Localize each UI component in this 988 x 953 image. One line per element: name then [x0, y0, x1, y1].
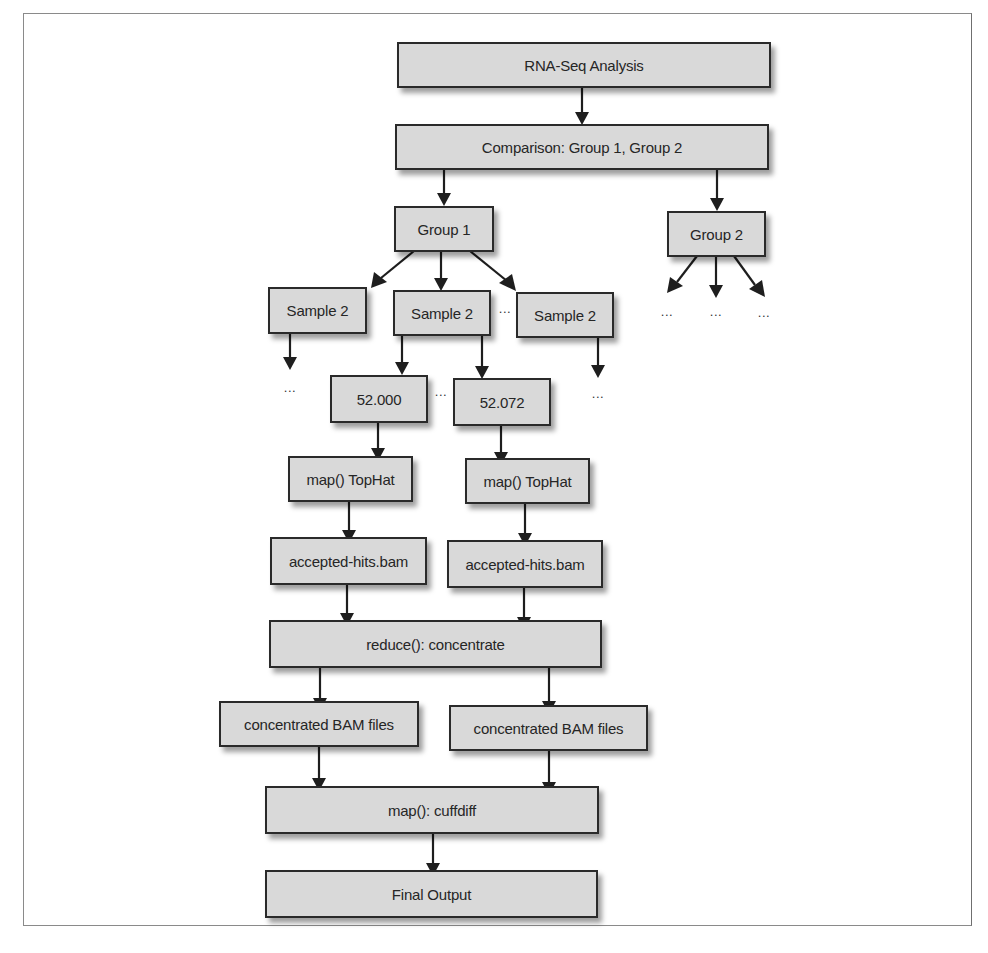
ellipsis-sample-right: ... [592, 386, 604, 401]
arrowhead [283, 357, 297, 370]
node-map-tophat-b: map() TopHat [465, 458, 590, 504]
ellipsis-between-samples: ... [499, 301, 511, 316]
node-concentrated-bam-a: concentrated BAM files [219, 701, 419, 747]
arrowhead [591, 365, 605, 378]
node-final-output: Final Output [265, 870, 598, 918]
edge-group2-ellipsis-1 [677, 256, 697, 282]
arrowhead [709, 285, 723, 298]
ellipsis-group2-2: ... [710, 304, 722, 319]
arrowhead [395, 362, 409, 375]
node-sample-left: Sample 2 [268, 287, 367, 334]
node-sample-middle: Sample 2 [393, 290, 491, 336]
node-map-tophat-a: map() TopHat [288, 456, 413, 502]
node-accepted-hits-b: accepted-hits.bam [447, 540, 603, 588]
edge-group1-sample-left [381, 251, 414, 278]
node-file-52-072: 52.072 [453, 378, 551, 426]
edge-group2-ellipsis-3 [734, 256, 755, 285]
ellipsis-between-files: ... [435, 384, 447, 399]
node-rna-seq-analysis: RNA-Seq Analysis [397, 42, 771, 88]
node-accepted-hits-a: accepted-hits.bam [270, 537, 427, 585]
node-reduce-concentrate: reduce(): concentrate [269, 620, 602, 668]
edge-group1-sample-right [470, 251, 507, 281]
ellipsis-group2-1: ... [661, 304, 673, 319]
node-group-1: Group 1 [394, 206, 494, 252]
arrowhead [710, 198, 724, 211]
node-sample-right: Sample 2 [516, 292, 614, 338]
node-file-52-000: 52.000 [330, 375, 428, 423]
arrowhead [667, 277, 683, 293]
ellipsis-group2-3: ... [758, 305, 770, 320]
node-group-2: Group 2 [667, 211, 766, 257]
node-comparison: Comparison: Group 1, Group 2 [395, 124, 769, 170]
node-map-cuffdiff: map(): cuffdiff [265, 786, 599, 834]
node-concentrated-bam-b: concentrated BAM files [449, 705, 648, 751]
arrowhead [437, 193, 451, 206]
ellipsis-sample-left: ... [284, 380, 296, 395]
arrowhead [749, 280, 765, 297]
